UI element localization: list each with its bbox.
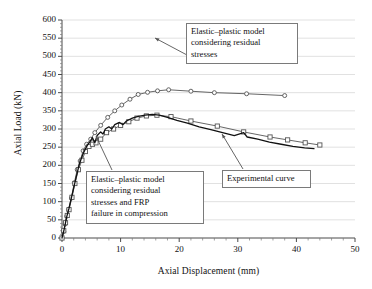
x-tick-label: 10 bbox=[106, 244, 136, 254]
data-point bbox=[120, 103, 124, 107]
data-point bbox=[318, 143, 322, 147]
x-tick-label: 0 bbox=[47, 244, 77, 254]
chart-figure: Axial Load (kN) Axial Displacement (mm) … bbox=[0, 0, 372, 289]
x-tick-label: 50 bbox=[340, 244, 370, 254]
annotation-line: considering residual bbox=[91, 185, 199, 196]
y-tick-label: 550 bbox=[26, 32, 56, 42]
data-point bbox=[146, 90, 150, 94]
y-tick-label: 150 bbox=[26, 178, 56, 188]
annotation-line: Elastic–plastic model bbox=[91, 174, 199, 185]
annotation-line: stresses and FRP bbox=[91, 197, 199, 208]
x-tick-label: 30 bbox=[223, 244, 253, 254]
data-point bbox=[189, 119, 193, 123]
data-point bbox=[245, 92, 249, 96]
x-tick-label: 40 bbox=[281, 244, 311, 254]
annotation-elastic-plastic-residual-frp-failure: Elastic–plastic modelconsidering residua… bbox=[86, 171, 204, 224]
data-point bbox=[156, 89, 160, 93]
data-point bbox=[99, 123, 103, 127]
y-tick-label: 400 bbox=[26, 87, 56, 97]
data-point bbox=[189, 89, 193, 93]
y-tick-label: 600 bbox=[26, 14, 56, 24]
data-point bbox=[215, 124, 219, 128]
y-axis-title: Axial Load (kN) bbox=[13, 68, 23, 178]
y-tick-label: 250 bbox=[26, 141, 56, 151]
annotation-line: failure in compression bbox=[91, 208, 199, 219]
data-point bbox=[303, 141, 307, 145]
y-tick-label: 50 bbox=[26, 214, 56, 224]
y-tick-label: 300 bbox=[26, 123, 56, 133]
x-tick-label: 20 bbox=[164, 244, 194, 254]
y-tick-label: 0 bbox=[26, 232, 56, 242]
data-point bbox=[286, 138, 290, 142]
y-tick-label: 450 bbox=[26, 69, 56, 79]
y-tick-label: 200 bbox=[26, 159, 56, 169]
data-point bbox=[268, 135, 272, 139]
annotation-line: stresses bbox=[191, 49, 293, 60]
annotation-line: Experimental curve bbox=[227, 173, 306, 184]
data-point bbox=[212, 91, 216, 95]
annotation-elastic-plastic-residual-stresses: Elastic–plastic modelconsidering residua… bbox=[186, 23, 298, 64]
annotation-line: Elastic–plastic model bbox=[191, 26, 293, 37]
data-point bbox=[167, 88, 171, 92]
data-point bbox=[136, 92, 140, 96]
data-point bbox=[106, 115, 110, 119]
annotation-line: considering residual bbox=[191, 37, 293, 48]
data-point bbox=[99, 137, 103, 141]
y-tick-label: 100 bbox=[26, 196, 56, 206]
data-point bbox=[113, 109, 117, 113]
x-axis-title: Axial Displacement (mm) bbox=[62, 266, 355, 276]
data-point bbox=[128, 97, 132, 101]
data-point bbox=[93, 131, 97, 135]
annotation-experimental-curve: Experimental curve bbox=[222, 170, 311, 188]
data-point bbox=[283, 94, 287, 98]
y-tick-label: 350 bbox=[26, 105, 56, 115]
y-tick-label: 500 bbox=[26, 50, 56, 60]
